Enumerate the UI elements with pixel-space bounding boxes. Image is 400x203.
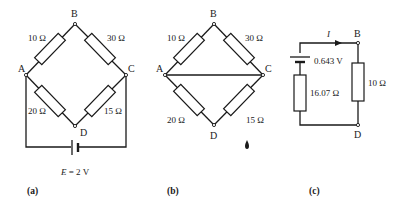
node-b [73,22,76,25]
node-label-b: B [354,28,361,39]
node-label-d: D [354,129,361,140]
node-d [356,123,359,126]
node-b [356,41,359,44]
source-voltage-label: 0.643 V [314,56,343,66]
figure-b-bridge-shorted: B A C D 10 Ω 30 Ω 20 Ω 15 Ω (b) [156,8,272,197]
resistor-label-10: 10 Ω [167,33,185,43]
current-label: I [326,29,331,39]
internal-resistance-label: 16.07 Ω [310,88,340,98]
node-d [73,124,76,127]
resistor-label-20: 20 Ω [167,115,185,125]
resistor-label-10: 10 Ω [28,33,46,43]
caption-b: (b) [167,186,179,197]
node-a [163,73,166,76]
resistor-15-ohm [224,84,255,115]
figure-a-bridge-circuit: B A C D 10 Ω 30 Ω 20 Ω 15 Ω E = 2 V (a) [18,8,135,197]
resistor-label-30: 30 Ω [245,33,263,43]
node-label-b: B [71,8,78,19]
node-label-c: C [128,63,135,74]
source-label: E = 2 V [60,167,90,177]
caption-a: (a) [27,186,38,197]
node-label-d: D [210,130,217,141]
resistor-10-ohm-load [352,63,364,101]
resistor-label-20: 20 Ω [28,106,46,116]
node-label-a: A [156,63,164,74]
ink-blot [245,140,249,149]
circuit-diagrams: B A C D 10 Ω 30 Ω 20 Ω 15 Ω E = 2 V (a) … [0,0,400,203]
node-label-b: B [210,8,217,19]
caption-c: (c) [309,186,320,197]
resistor-label-15: 15 Ω [104,106,122,116]
wire-top [300,43,358,53]
node-b [212,22,215,25]
current-arrow-icon [335,40,342,46]
wire-bottom [300,111,358,125]
node-d [212,123,215,126]
node-label-d: D [80,127,87,138]
resistor-label-30: 30 Ω [107,33,125,43]
resistor-20-ohm [174,84,205,115]
figure-c-thevenin-equivalent: I B D 0.643 V 16.07 Ω 10 Ω (c) [290,28,386,197]
resistor-label-15: 15 Ω [246,115,264,125]
resistor-16-07-ohm [294,75,306,111]
node-label-a: A [18,63,26,74]
node-label-c: C [265,63,272,74]
load-resistance-label: 10 Ω [368,78,386,88]
